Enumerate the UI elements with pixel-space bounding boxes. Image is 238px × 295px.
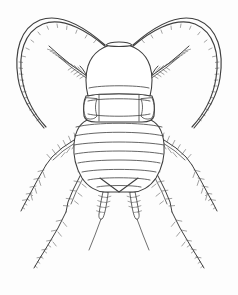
wing-pads	[84, 94, 155, 122]
insect-line-drawing	[0, 0, 238, 295]
vertex-plate	[106, 42, 132, 47]
figure-root	[0, 0, 238, 295]
